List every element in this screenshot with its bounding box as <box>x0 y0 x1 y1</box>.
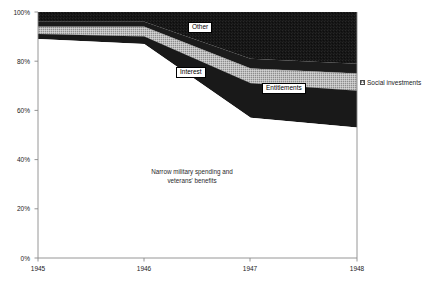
legend-label: Social investments <box>367 79 421 86</box>
annotation-military-veterans: Narrow military spending and veterans' b… <box>113 167 271 185</box>
series-label-entitlements: Entitlements <box>262 83 306 94</box>
y-axis-tick-label: 20% <box>0 205 30 212</box>
annotation-line-1: Narrow military spending and <box>113 167 271 176</box>
annotation-line-2: veterans' benefits <box>113 176 271 185</box>
y-axis-tick-label: 100% <box>0 9 30 16</box>
x-axis-tick-label: 1945 <box>18 265 58 272</box>
stacked-area-plot <box>0 0 435 290</box>
series-label-other: Other <box>188 22 212 33</box>
x-axis-tick-label: 1948 <box>337 265 377 272</box>
series-label-interest: Interest <box>176 67 206 78</box>
x-axis-tick-label: 1946 <box>124 265 164 272</box>
y-axis-tick-label: 40% <box>0 156 30 163</box>
y-axis-tick-label: 80% <box>0 58 30 65</box>
x-axis-tick-label: 1947 <box>230 265 270 272</box>
legend-item-social-investments: Social investments <box>360 79 421 86</box>
legend-swatch-icon <box>360 80 365 85</box>
chart-figure: 100% 80% 60% 40% 20% 0% 1945 1946 1947 1… <box>0 0 435 290</box>
y-axis-tick-label: 0% <box>0 255 30 262</box>
y-axis-tick-label: 60% <box>0 107 30 114</box>
